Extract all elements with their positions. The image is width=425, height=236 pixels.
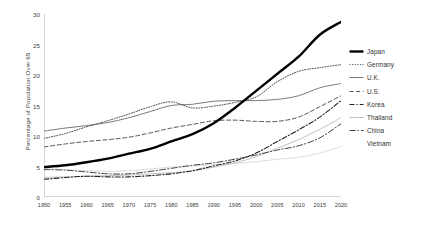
x-tick-1975: 1975: [144, 202, 156, 208]
x-tick-1970: 1970: [123, 202, 135, 208]
y-tick-25: 25: [18, 41, 40, 48]
legend-swatch-icon: [349, 73, 364, 82]
legend-swatch-icon: [349, 113, 364, 122]
legend-item-germany[interactable]: Germany: [349, 58, 425, 71]
series-line-china: [44, 124, 341, 174]
x-tick-2020: 2020: [335, 202, 347, 208]
chart-legend: JapanGermanyU.K.U.S.KoreaThailandChinaVi…: [349, 45, 425, 151]
y-tick-0: 0: [18, 194, 40, 201]
x-tick-1960: 1960: [80, 202, 92, 208]
legend-item-korea[interactable]: Korea: [349, 98, 425, 111]
x-tick-1980: 1980: [165, 202, 177, 208]
legend-label: Thailand: [367, 114, 392, 121]
x-tick-2015: 2015: [314, 202, 326, 208]
legend-swatch-icon: [349, 126, 364, 135]
x-tick-1990: 1990: [207, 202, 219, 208]
legend-item-thailand[interactable]: Thailand: [349, 111, 425, 124]
legend-label: U.S.: [367, 88, 380, 95]
legend-label: Japan: [367, 48, 385, 55]
legend-swatch-icon: [349, 47, 364, 56]
legend-item-vietnam[interactable]: Vietnam: [349, 137, 425, 150]
series-line-germany: [44, 65, 341, 139]
x-tick-1950: 1950: [38, 202, 50, 208]
series-line-uk: [44, 84, 341, 132]
x-tick-1985: 1985: [186, 202, 198, 208]
y-axis-tick-labels: 051015202530: [14, 14, 40, 197]
series-line-vietnam: [44, 146, 341, 171]
series-line-us: [44, 96, 341, 147]
legend-item-us[interactable]: U.S.: [349, 85, 425, 98]
x-tick-1965: 1965: [101, 202, 113, 208]
series-line-korea: [44, 101, 341, 180]
y-tick-20: 20: [18, 72, 40, 79]
x-axis-tick-labels: 1950195519601965197019751980198519901995…: [44, 200, 341, 214]
legend-swatch-icon: [349, 100, 364, 109]
legend-label: China: [367, 127, 384, 134]
y-tick-5: 5: [18, 163, 40, 170]
x-tick-2010: 2010: [292, 202, 304, 208]
series-lines: [44, 14, 341, 197]
legend-item-uk[interactable]: U.K.: [349, 71, 425, 84]
x-tick-2000: 2000: [250, 202, 262, 208]
y-tick-10: 10: [18, 133, 40, 140]
series-line-japan: [44, 22, 341, 167]
legend-swatch-icon: [349, 139, 364, 148]
legend-item-china[interactable]: China: [349, 124, 425, 137]
legend-label: Germany: [367, 61, 394, 68]
legend-swatch-icon: [349, 60, 364, 69]
y-tick-15: 15: [18, 102, 40, 109]
legend-label: Korea: [367, 101, 385, 108]
legend-swatch-icon: [349, 87, 364, 96]
series-line-thailand: [44, 118, 341, 178]
legend-label: Vietnam: [367, 140, 391, 147]
chart-figure: Percentage of Population Over 65 0510152…: [0, 0, 425, 236]
y-tick-30: 30: [18, 11, 40, 18]
x-tick-1955: 1955: [59, 202, 71, 208]
legend-item-japan[interactable]: Japan: [349, 45, 425, 58]
legend-label: U.K.: [367, 74, 380, 81]
plot-area: [44, 14, 341, 197]
x-tick-1995: 1995: [229, 202, 241, 208]
x-tick-2005: 2005: [271, 202, 283, 208]
